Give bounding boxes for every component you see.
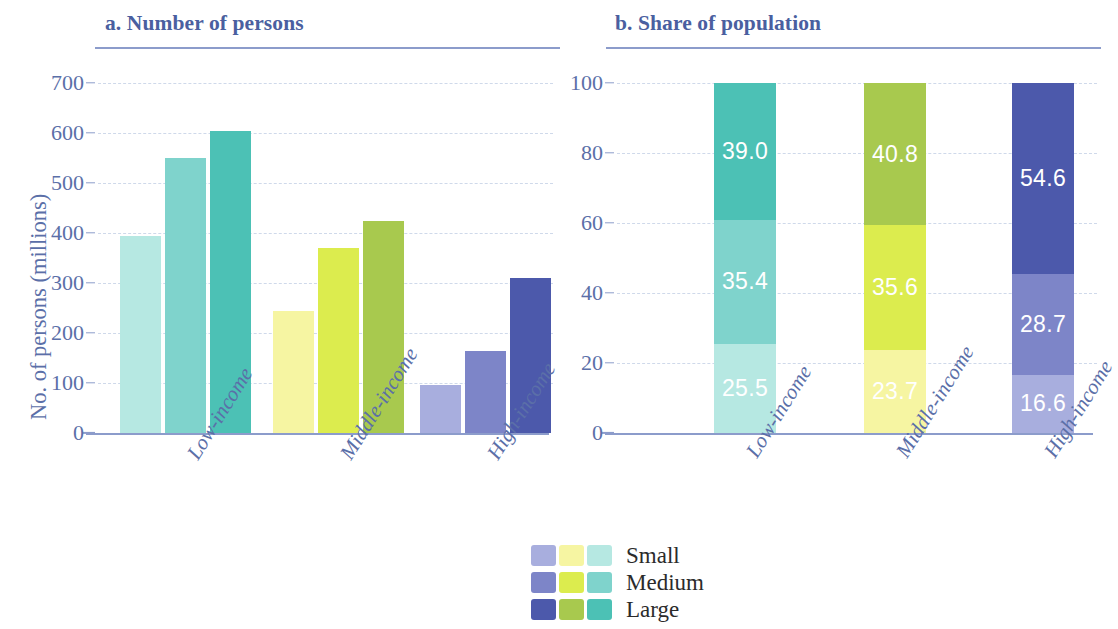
chart-legend: SmallMediumLarge: [531, 542, 731, 623]
legend-swatch: [587, 599, 612, 620]
bar-small-high-income: [420, 385, 461, 434]
panel-b-tick-mark: [605, 222, 614, 223]
legend-swatch: [559, 545, 584, 566]
legend-label: Large: [626, 597, 679, 623]
panel-b-tick-mark: [605, 362, 614, 363]
panel-b-y-tick-label: 0: [592, 420, 603, 446]
panel-a-y-tick-label: 300: [51, 270, 84, 296]
panel-b-y-tick-label: 40: [581, 280, 603, 306]
stack-segment-value: 28.7: [1020, 311, 1066, 338]
panel-b-plot-area: 02040608010025.535.439.023.735.640.816.6…: [617, 83, 1097, 433]
panel-b-y-tick-label: 100: [570, 70, 603, 96]
legend-item-small[interactable]: Small: [531, 542, 731, 569]
panel-b-title: b. Share of population: [615, 11, 821, 36]
stack-segment-value: 40.8: [872, 141, 918, 168]
stacked-bar-low-income: 25.535.439.0: [714, 83, 776, 433]
panel-a-y-tick-label: 100: [51, 370, 84, 396]
panel-a-y-tick-label: 600: [51, 120, 84, 146]
stacked-bar-high-income: 16.628.754.6: [1012, 83, 1074, 433]
stack-segment-value: 25.5: [722, 375, 768, 402]
stack-segment-value: 23.7: [872, 378, 918, 405]
legend-swatch: [559, 572, 584, 593]
stack-segment-medium-middle-income: 35.6: [864, 225, 926, 350]
panel-b-title-rule: [606, 47, 1101, 49]
panel-a-tick-mark: [86, 332, 95, 333]
legend-item-medium[interactable]: Medium: [531, 569, 731, 596]
bar-medium-low-income: [165, 158, 206, 433]
panel-a-title-rule: [95, 47, 560, 49]
panel-b-y-tick-label: 80: [581, 140, 603, 166]
panel-a-tick-mark: [86, 82, 95, 83]
panel-b-tick-mark: [605, 82, 614, 83]
stack-segment-value: 35.6: [872, 274, 918, 301]
stack-segment-medium-high-income: 28.7: [1012, 274, 1074, 374]
panel-a-y-axis-title: No. of persons (millions): [26, 194, 52, 420]
panel-a-tick-mark: [86, 182, 95, 183]
legend-label: Medium: [626, 570, 704, 596]
legend-swatch: [531, 545, 556, 566]
panel-a-title: a. Number of persons: [105, 11, 304, 36]
stack-segment-medium-low-income: 35.4: [714, 220, 776, 344]
panel-a-tick-mark: [86, 382, 95, 383]
panel-a-y-tick-label: 700: [51, 70, 84, 96]
stack-segment-large-high-income: 54.6: [1012, 83, 1074, 274]
legend-swatch: [531, 599, 556, 620]
panel-a-y-tick-label: 500: [51, 170, 84, 196]
stack-segment-value: 54.6: [1020, 165, 1066, 192]
panel-b-tick-mark: [605, 152, 614, 153]
stack-segment-large-low-income: 39.0: [714, 83, 776, 220]
stack-segment-value: 35.4: [722, 268, 768, 295]
panel-a-tick-mark: [86, 132, 95, 133]
panel-a-y-tick-label: 0: [73, 420, 84, 446]
panel-a-y-tick-label: 200: [51, 320, 84, 346]
stack-segment-value: 39.0: [722, 138, 768, 165]
legend-swatch: [531, 572, 556, 593]
legend-label: Small: [626, 543, 680, 569]
panel-a-gridline: [98, 83, 553, 84]
stacked-bar-middle-income: 23.735.640.8: [864, 83, 926, 433]
legend-swatch: [587, 572, 612, 593]
bar-small-middle-income: [273, 311, 314, 434]
panel-share-of-population: b. Share of population Share of populati…: [570, 0, 1118, 629]
panel-a-tick-mark: [86, 282, 95, 283]
panel-a-y-tick-label: 400: [51, 220, 84, 246]
panel-a-tick-mark: [86, 232, 95, 233]
bar-medium-middle-income: [318, 248, 359, 433]
panel-b-y-tick-label: 20: [581, 350, 603, 376]
panel-a-gridline: [98, 133, 553, 134]
stack-segment-large-middle-income: 40.8: [864, 83, 926, 226]
panel-b-tick-mark: [605, 292, 614, 293]
bar-small-low-income: [120, 236, 161, 434]
legend-swatch: [587, 545, 612, 566]
legend-item-large[interactable]: Large: [531, 596, 731, 623]
panel-number-of-persons: a. Number of persons No. of persons (mil…: [0, 0, 570, 629]
legend-swatch: [559, 599, 584, 620]
panel-b-y-tick-label: 60: [581, 210, 603, 236]
stack-segment-value: 16.6: [1020, 390, 1066, 417]
panel-a-plot-area: 0100200300400500600700Low-incomeMiddle-i…: [98, 83, 553, 433]
